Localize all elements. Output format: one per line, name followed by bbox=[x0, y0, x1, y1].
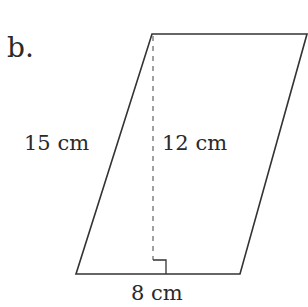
parallelogram-diagram: b. 15 cm 12 cm 8 cm bbox=[0, 0, 308, 307]
base-length-label: 8 cm bbox=[131, 281, 183, 305]
right-angle-marker bbox=[153, 260, 166, 274]
side-length-label: 15 cm bbox=[24, 131, 89, 155]
height-label: 12 cm bbox=[162, 131, 227, 155]
problem-label: b. bbox=[7, 31, 34, 64]
